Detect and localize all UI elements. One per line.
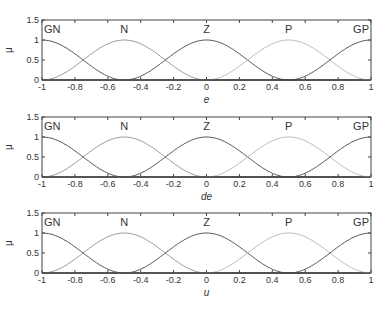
y-tick-label: 0.5 <box>26 152 39 162</box>
mf-label-gn: GN <box>44 120 61 132</box>
x-tick-label: 0.6 <box>299 275 312 285</box>
x-tick-label: -1 <box>38 275 46 285</box>
y-axis-label: μ <box>3 240 14 246</box>
x-tick-label: -0.8 <box>67 275 83 285</box>
y-tick-label: 0 <box>34 75 39 85</box>
mf-label-gp: GP <box>353 120 369 132</box>
x-tick-label: -0.6 <box>100 275 116 285</box>
x-tick-label: -0.4 <box>133 179 149 189</box>
mf-label-z: Z <box>203 120 210 132</box>
y-tick-label: 0 <box>34 268 39 278</box>
x-tick-label: -1 <box>38 82 46 92</box>
x-tick-label: 0.2 <box>233 275 246 285</box>
mf-label-gp: GP <box>353 216 369 228</box>
x-tick-label: -0.2 <box>166 275 182 285</box>
y-tick-label: 1.5 <box>26 208 39 218</box>
x-axis-label: e <box>204 94 210 105</box>
x-tick-label: -0.4 <box>133 82 149 92</box>
x-tick-label: 0 <box>204 179 209 189</box>
y-tick-label: 1 <box>34 35 39 45</box>
mf-label-gn: GN <box>44 23 61 35</box>
y-tick-label: 0 <box>34 172 39 182</box>
x-tick-label: -0.2 <box>166 82 182 92</box>
y-tick-label: 0.5 <box>26 55 39 65</box>
x-axis-label: de <box>201 191 213 202</box>
y-axis-label: μ <box>3 144 14 150</box>
x-tick-label: 0.8 <box>332 179 345 189</box>
x-tick-label: 0.2 <box>233 82 246 92</box>
x-tick-label: 1 <box>368 179 373 189</box>
mf-label-z: Z <box>203 23 210 35</box>
mf-label-z: Z <box>203 216 210 228</box>
x-tick-label: 0 <box>204 275 209 285</box>
x-tick-label: -0.8 <box>67 179 83 189</box>
x-tick-label: 0 <box>204 82 209 92</box>
x-tick-label: 0.2 <box>233 179 246 189</box>
x-tick-label: 0.8 <box>332 275 345 285</box>
mf-label-p: P <box>285 120 292 132</box>
mf-label-n: N <box>120 216 128 228</box>
x-tick-label: -0.6 <box>100 179 116 189</box>
mf-label-gn: GN <box>44 216 61 228</box>
membership-functions-figure: -1-0.8-0.6-0.4-0.200.20.40.60.8100.511.5… <box>0 0 385 309</box>
x-tick-label: 0.4 <box>266 179 279 189</box>
x-tick-label: 1 <box>368 82 373 92</box>
y-tick-label: 1.5 <box>26 15 39 25</box>
x-tick-label: -0.4 <box>133 275 149 285</box>
x-tick-label: -0.6 <box>100 82 116 92</box>
x-axis-label: u <box>204 287 210 298</box>
y-axis-label: μ <box>3 47 14 53</box>
mf-label-p: P <box>285 216 292 228</box>
y-tick-label: 0.5 <box>26 248 39 258</box>
x-tick-label: 1 <box>368 275 373 285</box>
x-tick-label: 0.6 <box>299 82 312 92</box>
x-tick-label: 0.4 <box>266 275 279 285</box>
mf-label-n: N <box>120 23 128 35</box>
y-tick-label: 1.5 <box>26 112 39 122</box>
mf-label-p: P <box>285 23 292 35</box>
x-tick-label: 0.6 <box>299 179 312 189</box>
mf-label-gp: GP <box>353 23 369 35</box>
x-tick-label: 0.4 <box>266 82 279 92</box>
x-tick-label: -0.8 <box>67 82 83 92</box>
y-tick-label: 1 <box>34 228 39 238</box>
x-tick-label: -1 <box>38 179 46 189</box>
x-tick-label: -0.2 <box>166 179 182 189</box>
y-tick-label: 1 <box>34 132 39 142</box>
mf-label-n: N <box>120 120 128 132</box>
x-tick-label: 0.8 <box>332 82 345 92</box>
